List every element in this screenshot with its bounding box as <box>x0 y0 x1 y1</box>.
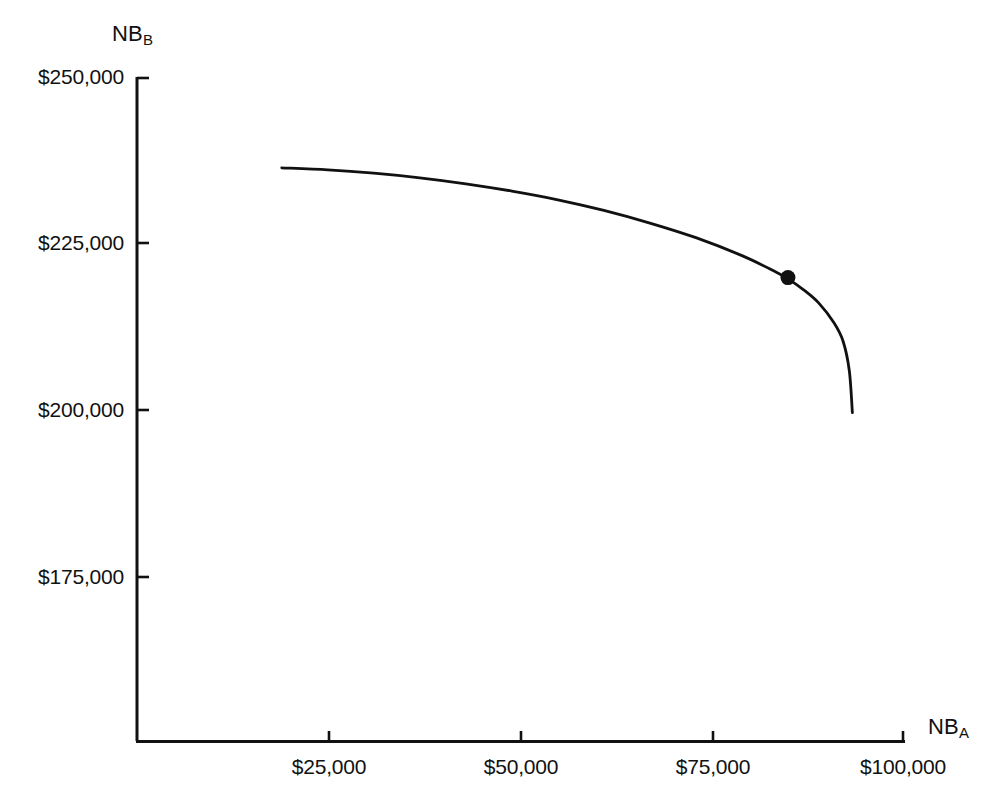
x-tick-label-75000: $75,000 <box>633 756 793 778</box>
x-axis-ticks <box>329 731 903 741</box>
y-axis-title: NBB <box>112 22 153 48</box>
y-axis-title-subscript: B <box>143 31 153 48</box>
y-axis-title-base: NB <box>112 21 143 46</box>
y-axis-ticks <box>137 78 149 577</box>
y-tick-label-200000: $200,000 <box>0 399 124 421</box>
bargaining-solution-point <box>780 270 795 285</box>
x-axis-title-subscript: A <box>959 724 969 741</box>
plot-canvas <box>0 0 994 803</box>
x-axis-title: NBA <box>928 715 969 741</box>
frontier-curve <box>282 168 853 413</box>
y-tick-label-250000: $250,000 <box>0 66 124 88</box>
y-tick-label-175000: $175,000 <box>0 566 124 588</box>
x-axis-title-base: NB <box>928 714 959 739</box>
x-tick-label-50000: $50,000 <box>441 756 601 778</box>
chart-figure: NBB NBA $250,000 $225,000 $200,000 $175,… <box>0 0 994 803</box>
x-tick-label-100000: $100,000 <box>818 756 988 778</box>
y-tick-label-225000: $225,000 <box>0 232 124 254</box>
x-tick-label-25000: $25,000 <box>249 756 409 778</box>
